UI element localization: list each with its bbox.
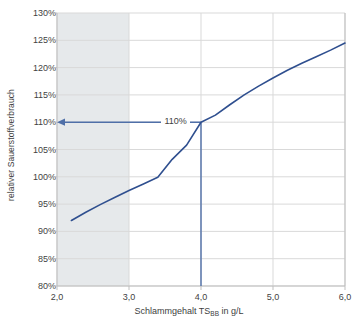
x-axis-title-subscript: BB — [210, 310, 219, 317]
chart-container: relativer Sauerstoffverbrauch 80%85%90%9… — [0, 0, 356, 329]
x-axis-title-text: Schlammgehalt TS — [134, 306, 210, 316]
x-axis-title: Schlammgehalt TSBB in g/L — [22, 306, 356, 316]
plot-area — [0, 0, 356, 329]
operating-point-label: 110% — [161, 116, 189, 126]
x-axis-title-unit: in g/L — [219, 306, 244, 316]
